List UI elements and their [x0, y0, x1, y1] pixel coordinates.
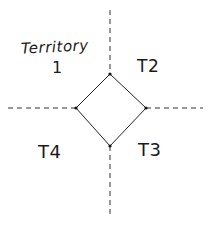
territory-1-label: Territory: [21, 38, 89, 57]
territory-diagram: [0, 0, 208, 225]
vertex-bottom: [108, 144, 111, 147]
center-diamond: [76, 74, 146, 146]
territory-3-label: T3: [138, 141, 161, 159]
territory-2-label: T2: [137, 58, 159, 75]
vertex-top: [108, 72, 111, 75]
vertex-left: [74, 106, 77, 109]
vertex-right: [144, 106, 147, 109]
territory-4-label: T4: [38, 143, 61, 161]
territory-1-number: 1: [52, 60, 63, 76]
